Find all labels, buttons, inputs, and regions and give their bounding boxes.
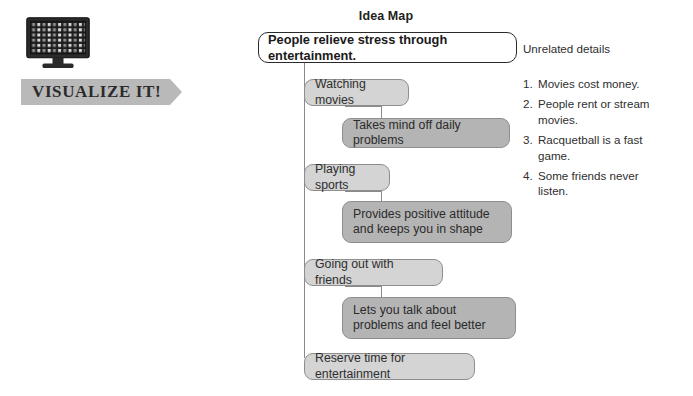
connector-h-3: [345, 286, 382, 287]
diagram-spine-line: [304, 63, 305, 358]
list-item-number: 4.: [523, 168, 533, 183]
list-item-number: 3.: [523, 132, 533, 147]
list-item: 2. People rent or stream movies.: [523, 96, 659, 127]
list-item-text: Racquetball is a fast game.: [538, 133, 642, 161]
unrelated-details-list: 1. Movies cost money. 2. People rent or …: [523, 76, 659, 204]
list-item-number: 2.: [523, 96, 533, 111]
page-title: Idea Map: [255, 9, 517, 23]
list-item-text: Some friends never listen.: [538, 169, 639, 197]
branch-node-playing-sports: Playing sports: [304, 164, 390, 191]
root-statement-box: People relieve stress through entertainm…: [258, 32, 517, 63]
list-item: 1. Movies cost money.: [523, 76, 659, 91]
banner-ribbon-body: VISUALIZE IT!: [21, 79, 170, 105]
conclusion-node-reserve-time: Reserve time for entertainment: [304, 353, 475, 380]
branch-node-watching-movies: Watching movies: [304, 79, 409, 106]
branch-node-going-out-with-friends: Going out with friends: [304, 259, 443, 286]
unrelated-details-panel: Unrelated details 1. Movies cost money. …: [523, 0, 693, 396]
left-illustration-panel: VISUALIZE IT!: [0, 0, 250, 396]
list-item-text: Movies cost money.: [538, 77, 640, 90]
connector-h-2: [345, 191, 382, 192]
computer-monitor-icon: [26, 17, 90, 69]
list-item-number: 1.: [523, 76, 533, 91]
list-item: 3. Racquetball is a fast game.: [523, 132, 659, 163]
detail-node-takes-mind-off: Takes mind off daily problems: [342, 118, 510, 148]
connector-h-1: [345, 106, 382, 107]
unrelated-details-heading: Unrelated details: [523, 42, 610, 55]
list-item: 4. Some friends never listen.: [523, 168, 659, 199]
detail-node-lets-you-talk: Lets you talk about problems and feel be…: [342, 297, 516, 339]
visualize-it-banner: VISUALIZE IT!: [21, 79, 170, 105]
banner-label: VISUALIZE IT!: [32, 82, 161, 102]
detail-node-provides-positive-attitude: Provides positive attitude and keeps you…: [342, 201, 512, 243]
list-item-text: People rent or stream movies.: [538, 97, 649, 125]
